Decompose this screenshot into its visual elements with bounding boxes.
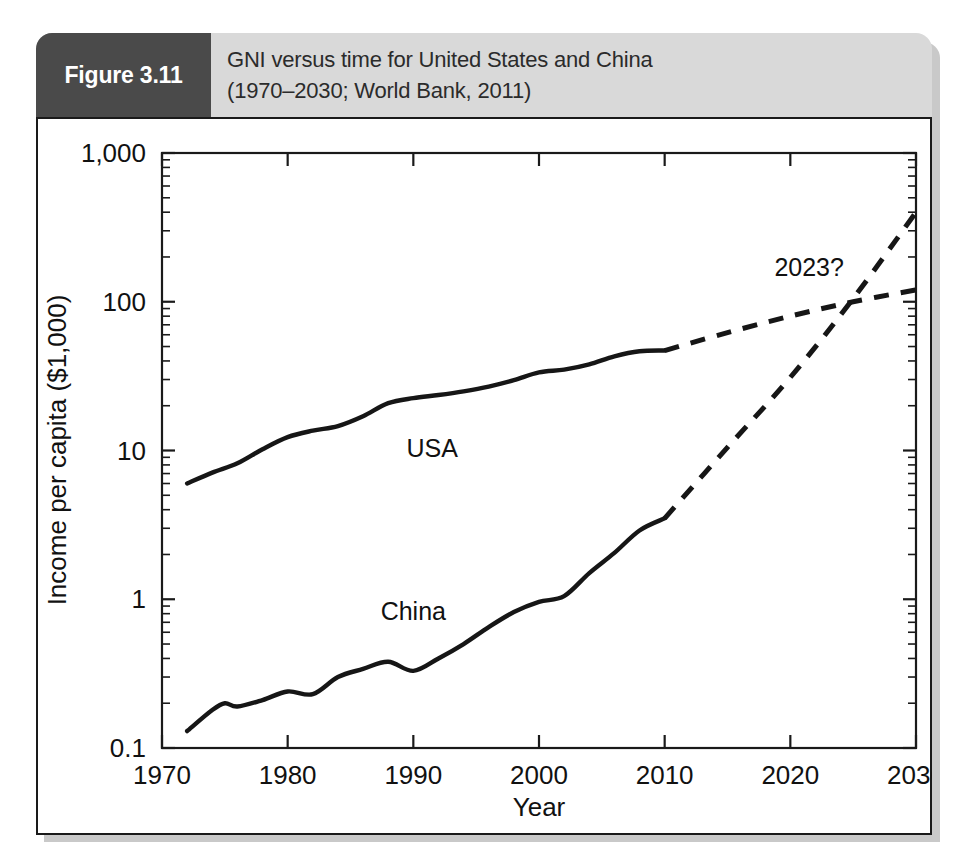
y-tick-label: 100 [103,287,146,317]
series-china [187,212,916,731]
data-series-group [187,212,916,731]
x-axis-ticks [162,153,916,748]
x-tick-label: 2010 [636,760,694,790]
annotation-crossover-year: 2023? [774,253,844,281]
y-tick-label: 1 [132,584,146,614]
x-tick-label: 1980 [259,760,317,790]
annotation-group: 2023?USAChina [381,253,844,626]
y-tick-label: 0.1 [110,733,146,763]
series-label-china: China [381,597,446,625]
x-tick-label: 1990 [384,760,442,790]
y-axis-tick-labels: 0.11101001,000 [81,138,146,763]
y-axis-ticks [162,153,916,748]
figure-number-label: Figure 3.11 [65,62,183,89]
x-axis-title: Year [513,792,566,822]
y-tick-label: 10 [117,436,146,466]
x-tick-label: 1970 [133,760,191,790]
y-tick-label: 1,000 [81,138,146,168]
series-usa-projected [665,290,916,351]
series-usa [187,290,916,484]
x-tick-label: 2000 [510,760,568,790]
series-label-usa: USA [406,434,458,462]
x-tick-label: 2030 [887,760,932,790]
series-usa-observed [187,351,665,484]
x-tick-label: 2020 [761,760,819,790]
x-axis-tick-labels: 1970198019902000201020202030 [133,760,932,790]
figure-caption-line-1: GNI versus time for United States and Ch… [227,44,917,75]
figure-container: Figure 3.11 GNI versus time for United S… [0,0,964,868]
axis-frame [162,153,916,748]
line-chart: 0.11101001,000 1970198019902000201020202… [36,117,932,835]
figure-caption: GNI versus time for United States and Ch… [227,44,917,106]
figure-number-badge: Figure 3.11 [36,33,211,117]
figure-caption-line-2: (1970–2030; World Bank, 2011) [227,75,917,106]
y-axis-title: Income per capita ($1,000) [42,295,72,606]
